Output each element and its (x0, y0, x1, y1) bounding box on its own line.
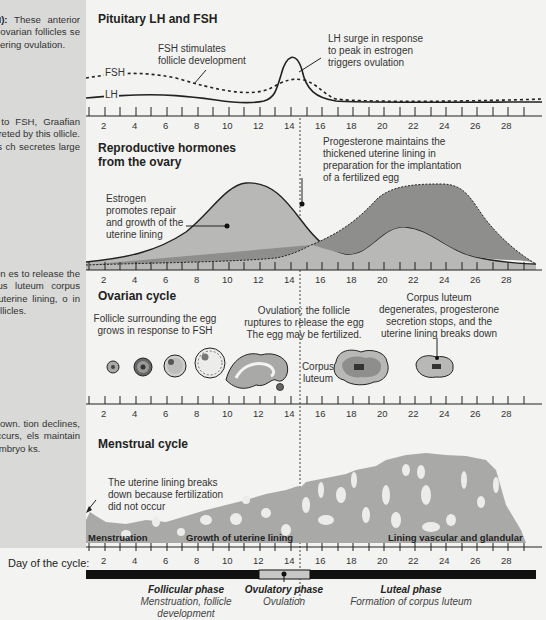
corpus-luteum-icon (334, 350, 388, 385)
stage-menstruation: Menstruation (88, 532, 148, 544)
degenerate-annotation-line: uterine lining breaks down (376, 328, 502, 340)
tick-label: 20 (377, 555, 388, 566)
tick-label: 12 (253, 408, 264, 419)
tick-label: 18 (346, 120, 357, 131)
degenerate-annotation-line: secretion stops, and the (376, 316, 502, 328)
tick-label: 6 (163, 408, 168, 419)
follicle-stage-1-icon (107, 361, 119, 373)
fsh-annotation: FSH stimulates follicle development (158, 43, 246, 67)
menstruation-annotation-line: down because fertilization (108, 489, 223, 501)
follicle-annotation-line: Follicle surrounding the egg (90, 313, 220, 325)
tick-label: 18 (346, 274, 357, 285)
sidebar-paragraph-hormones: (LH) and follicle e (FSH): These anterio… (0, 14, 80, 51)
tick-label: 14 (284, 555, 295, 566)
phase-name: Follicular phase (116, 584, 256, 596)
fsh-curve (86, 73, 542, 101)
pituitary-chart (86, 57, 542, 116)
arrowhead-icon (86, 506, 92, 513)
sidebar-text: These anterior pituitary . FSH stimulate… (0, 14, 80, 50)
lh-series-label: LH (104, 89, 119, 101)
tick-label: 16 (315, 408, 326, 419)
phase-description: Menstruation, follicle development (116, 596, 256, 620)
tick-label: 28 (501, 274, 512, 285)
degenerate-annotation-line: degenerates, progesterone (376, 304, 502, 316)
tick-label: 10 (222, 555, 233, 566)
tick-label: 18 (346, 408, 357, 419)
lh-annotation-line: to peak in estrogen (328, 45, 423, 57)
sidebar-heading: al cycle (0, 0, 80, 6)
progesterone-annotation-line: Progesterone maintains the (323, 136, 461, 148)
estrogen-annotation: Estrogen promotes repair and growth of t… (106, 193, 183, 241)
ovarian-cycle-title: Ovarian cycle (98, 289, 176, 303)
tick-label: 24 (439, 408, 450, 419)
tick-label: 26 (470, 274, 481, 285)
lh-annotation: LH surge in response to peak in estrogen… (328, 33, 423, 69)
ovary-hormones-title: Reproductive hormones from the ovary (98, 141, 236, 169)
tick-label: 12 (253, 120, 264, 131)
phase-bar (86, 570, 536, 582)
tick-label: 22 (408, 120, 419, 131)
sidebar-paragraph-follicles: the follicles that esponse to FSH, Graaf… (0, 116, 80, 166)
tick-label: 16 (315, 555, 326, 566)
progesterone-annotation-line: preparation for the implantation (323, 160, 461, 172)
tick-label: 12 (253, 555, 264, 566)
tick-label: 26 (470, 408, 481, 419)
sidebar-text: the follicles that esponse to FSH, Graaf… (0, 116, 80, 164)
follicle-stage-4-icon (195, 348, 225, 378)
menstruation-annotation-line: The uterine lining breaks (108, 477, 223, 489)
tick-label: 10 (222, 274, 233, 285)
sidebar-description: al cycle (LH) and follicle e (FSH): Thes… (0, 0, 86, 548)
follicular-phase-bar (86, 570, 259, 579)
tick-label: 24 (439, 120, 450, 131)
tick-label: 2 (101, 555, 106, 566)
corpus-luteum-label: Corpus luteum (298, 361, 338, 385)
menstruation-annotation-line: did not occur (108, 501, 223, 513)
tick-label: 10 (222, 408, 233, 419)
sidebar-text: : The Graafian grow and then es to relea… (0, 268, 80, 316)
corpus-luteum-label-line: luteum (298, 373, 338, 385)
sidebar-bold-term: (LH) and follicle e (FSH): (0, 14, 8, 25)
tick-label: 20 (377, 408, 388, 419)
ovulation-annotation-line: The egg may be fertilized. (234, 329, 374, 341)
fsh-annotation-line: follicle development (158, 55, 246, 67)
follicle-annotation-line: grows in response to FSH (90, 325, 220, 337)
progesterone-annotation-line: of a fertilized egg (323, 172, 461, 184)
corpus-luteum-label-line: Corpus (298, 361, 338, 373)
progesterone-pointer-dot (300, 202, 305, 207)
lh-annotation-line: LH surge in response (328, 33, 423, 45)
degenerate-annotation-line: Corpus luteum (376, 292, 502, 304)
phase-name: Luteal phase (346, 584, 476, 596)
luteal-phase-bar (310, 570, 536, 579)
estrogen-annotation-line: Estrogen (106, 193, 183, 205)
ovulation-annotation-line: Ovulation; the follicle (234, 305, 374, 317)
day-of-cycle-label: Day of the cycle: (8, 557, 89, 569)
estrogen-pointer-dot (225, 224, 230, 229)
degenerating-corpus-luteum-icon (416, 356, 453, 378)
follicle-stage-2-icon (134, 358, 152, 376)
fsh-annotation-line: FSH stimulates (158, 43, 246, 55)
tick-label: 28 (501, 408, 512, 419)
estrogen-annotation-line: and growth of the (106, 217, 183, 229)
axis-labels-pituitary: 2 4 6 8 10 12 14 16 18 20 22 24 26 28 (86, 120, 546, 132)
tick-label: 18 (346, 555, 357, 566)
tick-label: 10 (222, 120, 233, 131)
stage-growth: Growth of uterine lining (186, 532, 293, 544)
tick-label: 24 (439, 274, 450, 285)
ovulation-annotation: Ovulation; the follicle ruptures to rele… (234, 305, 374, 341)
lh-annotation-pointer (299, 58, 321, 72)
tick-label: 2 (101, 120, 106, 131)
sidebar-text: ization does not m breaks down. tion dec… (0, 418, 80, 454)
tick-label: 6 (163, 274, 168, 285)
ovulatory-phase-label: Ovulatory phase Ovulation (244, 584, 324, 608)
tick-label: 2 (101, 274, 106, 285)
tick-label: 4 (132, 408, 137, 419)
tick-label: 16 (315, 274, 326, 285)
tick-label: 8 (194, 274, 199, 285)
tick-label: 26 (470, 555, 481, 566)
menstrual-cycle-diagram: Pituitary LH and FSH FSH stimulates foll… (86, 0, 546, 616)
progesterone-annotation: Progesterone maintains the thickened ute… (323, 136, 461, 184)
tick-label: 6 (163, 555, 168, 566)
tick-label: 14 (284, 120, 295, 131)
tick-label: 4 (132, 555, 137, 566)
lh-curve (86, 57, 542, 103)
